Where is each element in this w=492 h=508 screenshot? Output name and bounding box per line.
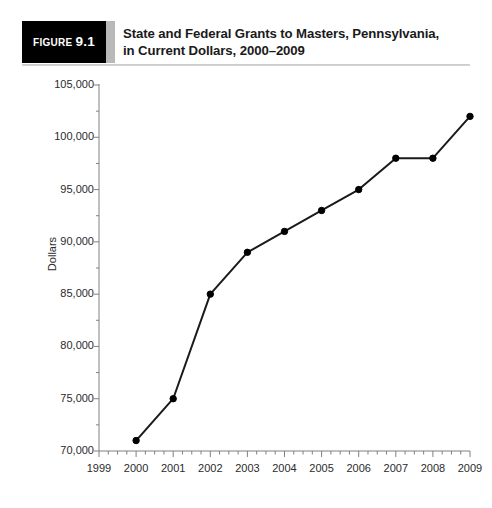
data-point-marker [244, 249, 250, 255]
data-point-marker [133, 437, 139, 443]
series-line [136, 116, 470, 440]
data-point-marker [170, 396, 176, 402]
data-point-marker [430, 155, 436, 161]
data-point-marker [467, 113, 473, 119]
data-point-marker [281, 228, 287, 234]
data-point-marker [318, 207, 324, 213]
data-point-marker [393, 155, 399, 161]
line-chart: Dollars 70,00075,00080,00085,00090,00095… [0, 0, 492, 508]
chart-plot-surface [0, 0, 492, 508]
data-point-marker [356, 186, 362, 192]
data-point-marker [207, 291, 213, 297]
figure-page: Figure9.1 State and Federal Grants to Ma… [0, 0, 492, 508]
